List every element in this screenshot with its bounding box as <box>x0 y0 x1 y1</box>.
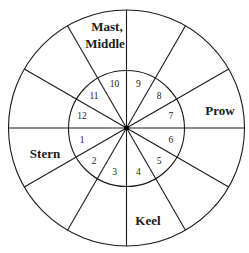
sector-number: 8 <box>157 91 162 101</box>
region-label-keel: Keel <box>135 213 161 228</box>
sector-number: 1 <box>80 135 85 145</box>
sector-number: 11 <box>89 91 98 101</box>
sector-number: 10 <box>110 79 120 89</box>
sector-number: 2 <box>92 156 97 166</box>
region-label-prow: Prow <box>205 103 235 118</box>
ship-wheel-diagram: 123456789101112 Mast, Middle Prow Stern … <box>0 0 249 253</box>
center-hub-dot <box>124 126 129 131</box>
sector-number: 6 <box>169 135 174 145</box>
region-label-mast: Mast, <box>91 19 122 34</box>
region-label-middle: Middle <box>85 36 125 51</box>
sector-number: 12 <box>77 111 87 121</box>
sector-number: 9 <box>136 79 141 89</box>
sector-number: 4 <box>136 167 141 177</box>
sector-number: 5 <box>157 156 162 166</box>
sector-number: 7 <box>169 111 174 121</box>
region-label-stern: Stern <box>30 146 61 161</box>
sector-number: 3 <box>112 167 117 177</box>
